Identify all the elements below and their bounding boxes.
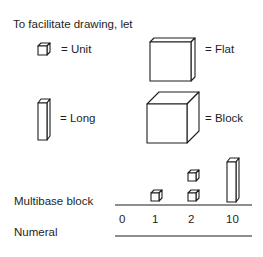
diagram-canvas (0, 0, 263, 257)
flat-label: = Flat (205, 44, 234, 56)
numeral-2: 2 (188, 214, 194, 226)
flat-icon (150, 38, 195, 81)
block-icon (147, 92, 199, 143)
column-2-unit-cube-icon (188, 190, 199, 201)
numeral-row-label: Numeral (14, 227, 57, 239)
block-label: = Block (205, 113, 243, 125)
long-rod-icon (38, 99, 50, 140)
numeral-1: 1 (152, 214, 158, 226)
long-label: = Long (60, 113, 96, 125)
numeral-10: 10 (226, 214, 239, 226)
column-1-unit-cube-icon (151, 190, 162, 201)
numeral-0: 0 (119, 214, 125, 226)
column-2-unit-cube-icon (188, 170, 199, 181)
multibase-block-row-label: Multibase block (14, 196, 93, 208)
column-10-long-rod-icon (227, 158, 239, 202)
unit-label: = Unit (61, 44, 91, 56)
unit-cube-icon (38, 43, 50, 55)
